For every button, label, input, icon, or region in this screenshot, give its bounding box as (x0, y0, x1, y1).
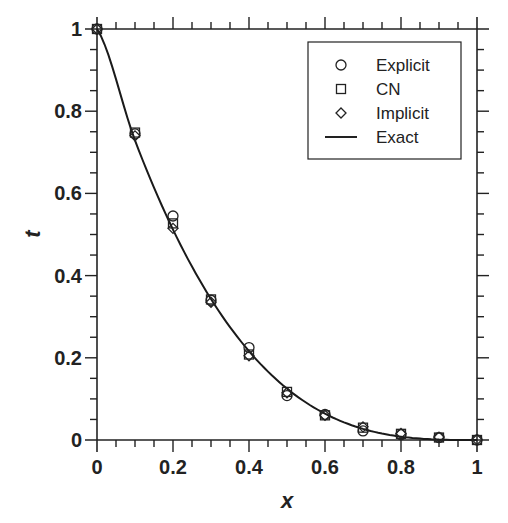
y-tick-label: 0 (71, 429, 82, 451)
y-tick-labels: 00.20.40.60.81 (54, 18, 83, 451)
x-tick-label: 1 (471, 456, 482, 478)
y-tick-label: 0.4 (54, 265, 83, 287)
chart: 00.20.40.60.81 00.20.40.60.81 x t Explic… (0, 0, 508, 523)
y-axis-title: t (20, 229, 45, 238)
legend-label: Exact (376, 128, 419, 147)
x-tick-labels: 00.20.40.60.81 (91, 456, 482, 478)
x-tick-label: 0.4 (235, 456, 264, 478)
legend-label: CN (376, 80, 401, 99)
y-tick-label: 1 (71, 18, 82, 40)
x-axis-title: x (280, 488, 294, 513)
legend-label: Explicit (376, 56, 430, 75)
legend: ExplicitCNImplicitExact (308, 42, 461, 159)
x-tick-label: 0.8 (387, 456, 415, 478)
y-tick-label: 0.6 (54, 182, 82, 204)
x-tick-label: 0 (91, 456, 102, 478)
y-tick-label: 0.2 (54, 347, 82, 369)
x-tick-label: 0.2 (159, 456, 187, 478)
y-tick-label: 0.8 (54, 100, 82, 122)
x-tick-label: 0.6 (311, 456, 339, 478)
legend-label: Implicit (376, 104, 429, 123)
